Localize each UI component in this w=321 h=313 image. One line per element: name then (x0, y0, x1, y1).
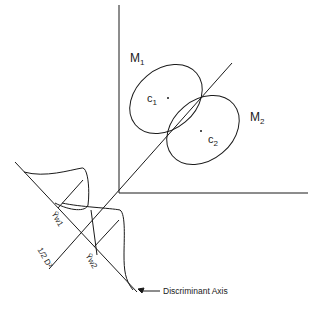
label-m2: M2 (250, 110, 265, 126)
diagram-canvas: M1 M2 c1 c2 Ȳw1 Ȳw2 1/2 D² Discriminant … (0, 0, 321, 313)
ellipse-intersection-line (49, 63, 232, 269)
projection-2 (94, 220, 119, 247)
projection-1 (58, 180, 83, 208)
arrow-head-icon (138, 288, 144, 293)
distribution-curve-1 (24, 168, 89, 210)
label-c1: c1 (147, 92, 158, 107)
centroid-c1-dot (167, 97, 169, 99)
centroid-c2-dot (200, 130, 202, 132)
label-m1: M1 (130, 51, 145, 67)
discriminant-diagram: M1 M2 c1 c2 Ȳw1 Ȳw2 1/2 D² Discriminant … (0, 0, 321, 313)
midpoint-curve (91, 210, 97, 255)
label-c2: c2 (208, 133, 219, 148)
label-discriminant-axis: Discriminant Axis (163, 286, 228, 296)
label-half-d2: 1/2 D² (35, 246, 54, 270)
